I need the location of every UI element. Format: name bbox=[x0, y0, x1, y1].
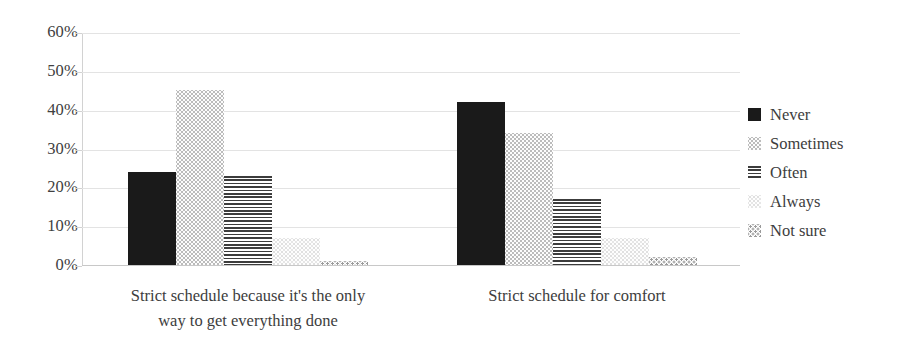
legend-label: Sometimes bbox=[770, 135, 843, 153]
y-tick-label: 10% bbox=[26, 218, 78, 234]
y-tick-mark bbox=[76, 33, 82, 34]
bar-chart: 60%50%40%30%20%10%0% Strict schedule bec… bbox=[0, 0, 915, 351]
y-tick-mark bbox=[76, 227, 82, 228]
legend-item-always[interactable]: Always bbox=[748, 187, 908, 216]
legend: NeverSometimesOftenAlwaysNot sure bbox=[748, 100, 908, 245]
legend-swatch-icon bbox=[748, 166, 761, 179]
y-tick-label: 40% bbox=[26, 102, 78, 118]
legend-item-never[interactable]: Never bbox=[748, 100, 908, 129]
x-axis-category-label: Strict schedule for comfort bbox=[427, 283, 727, 308]
legend-label: Never bbox=[770, 106, 810, 124]
y-tick-label: 20% bbox=[26, 179, 78, 195]
bar bbox=[224, 176, 272, 265]
x-axis-category-label-line: Strict schedule for comfort bbox=[427, 283, 727, 308]
bar bbox=[272, 238, 320, 265]
legend-item-sometimes[interactable]: Sometimes bbox=[748, 129, 908, 158]
y-axis-tick-labels: 60%50%40%30%20%10%0% bbox=[26, 0, 78, 351]
y-tick-mark bbox=[76, 188, 82, 189]
y-tick-label: 60% bbox=[26, 24, 78, 40]
bar bbox=[601, 238, 649, 265]
bars-layer bbox=[82, 33, 740, 266]
y-tick-mark bbox=[76, 150, 82, 151]
legend-label: Always bbox=[770, 193, 820, 211]
x-axis-category-labels: Strict schedule because it's the onlyway… bbox=[82, 283, 740, 347]
legend-item-not-sure[interactable]: Not sure bbox=[748, 216, 908, 245]
y-tick-label: 0% bbox=[26, 257, 78, 273]
bar bbox=[553, 199, 601, 265]
x-axis-category-label: Strict schedule because it's the onlyway… bbox=[98, 283, 398, 333]
bar bbox=[649, 257, 697, 265]
x-axis-category-label-line: Strict schedule because it's the only bbox=[98, 283, 398, 308]
plot-area bbox=[82, 33, 740, 266]
y-tick-mark bbox=[76, 266, 82, 267]
legend-swatch-icon bbox=[748, 195, 761, 208]
y-tick-label: 50% bbox=[26, 63, 78, 79]
y-tick-mark bbox=[76, 111, 82, 112]
legend-swatch-icon bbox=[748, 224, 761, 237]
legend-label: Often bbox=[770, 164, 808, 182]
legend-item-often[interactable]: Often bbox=[748, 158, 908, 187]
legend-swatch-icon bbox=[748, 137, 761, 150]
x-axis-category-label-line: way to get everything done bbox=[98, 308, 398, 333]
bar bbox=[457, 102, 505, 265]
legend-label: Not sure bbox=[770, 222, 826, 240]
y-tick-label: 30% bbox=[26, 141, 78, 157]
x-axis-baseline bbox=[82, 265, 740, 266]
bar bbox=[176, 90, 224, 265]
legend-swatch-icon bbox=[748, 108, 761, 121]
y-tick-mark bbox=[76, 72, 82, 73]
bar bbox=[128, 172, 176, 265]
bar bbox=[505, 133, 553, 265]
